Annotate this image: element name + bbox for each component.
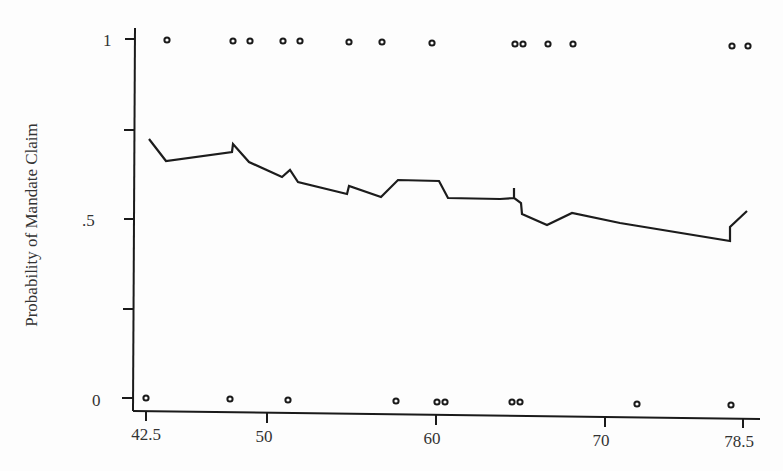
x-axis — [133, 411, 760, 428]
data-point — [517, 399, 522, 404]
data-point — [285, 397, 290, 402]
x-tick-label-78.5: 78.5 — [724, 432, 754, 451]
data-point — [434, 399, 439, 404]
x-tick-label-70: 70 — [593, 431, 610, 450]
data-point — [729, 43, 734, 48]
data-point — [280, 38, 285, 43]
x-tick-label-50: 50 — [256, 427, 273, 446]
data-point — [570, 41, 575, 46]
data-point — [393, 398, 398, 403]
data-point — [346, 39, 351, 44]
y-axis — [122, 28, 135, 411]
data-point — [634, 401, 639, 406]
logit-prediction-chart: 1 .5 0 42.5 50 60 70 78.5 Probability of… — [0, 0, 783, 471]
data-point — [728, 402, 733, 407]
y-tick-label-1: 1 — [103, 31, 112, 50]
data-point — [509, 399, 514, 404]
data-point — [520, 41, 525, 46]
observed-non-claims-points — [143, 395, 733, 407]
data-point — [143, 395, 148, 400]
data-point — [164, 37, 169, 42]
data-point — [379, 39, 384, 44]
data-point — [545, 41, 550, 46]
data-point — [227, 396, 232, 401]
data-point — [230, 38, 235, 43]
y-tick-label-05: .5 — [82, 211, 95, 230]
y-tick-label-0: 0 — [92, 391, 101, 410]
data-point — [745, 43, 750, 48]
data-point — [512, 41, 517, 46]
data-point — [442, 399, 447, 404]
observed-claims-points — [164, 37, 750, 48]
x-tick-label-42.5: 42.5 — [131, 425, 161, 444]
data-point — [297, 38, 302, 43]
x-tick-label-60: 60 — [424, 429, 441, 448]
predicted-probability-line — [149, 139, 747, 241]
y-axis-title: Probability of Mandate Claim — [22, 123, 41, 327]
data-point — [429, 40, 434, 45]
data-point — [247, 38, 252, 43]
